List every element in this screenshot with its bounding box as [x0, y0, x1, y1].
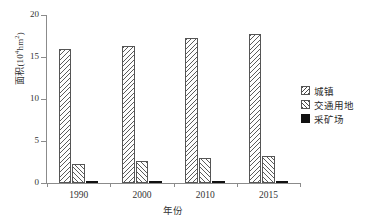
x-axis-title: 年份 [46, 203, 300, 217]
legend-label: 城镇 [314, 84, 334, 98]
y-tick-mark [41, 183, 46, 184]
x-tick-label-2010: 2010 [178, 190, 232, 200]
legend-item-采矿场: 采矿场 [301, 112, 385, 125]
x-tick-mark [300, 183, 301, 187]
x-tick-mark [237, 183, 238, 187]
legend-item-城镇: 城镇 [301, 84, 385, 97]
x-tick-label-2015: 2015 [241, 190, 295, 200]
y-tick-label: 0 [15, 178, 39, 187]
y-tick-label: 15 [15, 52, 39, 61]
bar-1990-城镇 [59, 49, 72, 183]
bar-2010-城镇 [185, 38, 198, 183]
legend-item-交通用地: 交通用地 [301, 98, 385, 111]
y-tick-label: 5 [15, 136, 39, 145]
plot-area [47, 15, 300, 183]
y-tick-mark [41, 141, 46, 142]
bar-2010-交通用地 [199, 158, 212, 183]
bar-2010-采矿场 [212, 181, 225, 183]
y-tick-label: 10 [15, 94, 39, 103]
x-tick-label-2000: 2000 [115, 190, 169, 200]
legend-label: 采矿场 [314, 112, 344, 126]
x-tick-mark [47, 183, 48, 187]
bar-chart: 面积(104hm2) 05101520 1990200020102015 年份 … [0, 0, 386, 223]
y-tick-mark [41, 15, 46, 16]
chart-legend: 城镇交通用地采矿场 [301, 84, 385, 126]
bar-2015-城镇 [249, 34, 262, 183]
y-tick-label: 20 [15, 10, 39, 19]
x-tick-mark [174, 183, 175, 187]
x-tick-label-1990: 1990 [52, 190, 106, 200]
bar-2000-交通用地 [136, 161, 149, 183]
bar-2000-城镇 [122, 46, 135, 183]
bar-2000-采矿场 [149, 181, 162, 183]
y-tick-mark [41, 99, 46, 100]
y-tick-mark [41, 57, 46, 58]
legend-swatch-icon [301, 100, 310, 109]
legend-swatch-icon [301, 114, 310, 123]
bar-2015-采矿场 [276, 181, 289, 183]
bar-2015-交通用地 [262, 156, 275, 183]
legend-label: 交通用地 [314, 98, 354, 112]
x-tick-mark [110, 183, 111, 187]
legend-swatch-icon [301, 86, 310, 95]
bar-1990-采矿场 [86, 181, 99, 183]
bar-1990-交通用地 [72, 164, 85, 183]
